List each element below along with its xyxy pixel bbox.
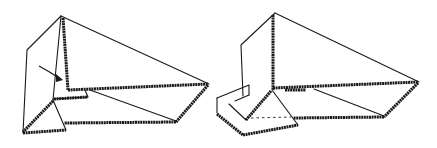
hidden-fold-line bbox=[251, 117, 291, 118]
diagram-svg bbox=[0, 0, 437, 148]
fold-figure-right bbox=[217, 13, 419, 135]
arrow-head-icon bbox=[56, 74, 63, 82]
origami-diagram: Fold inner layer along arrow Result with… bbox=[0, 0, 437, 148]
fold-figure-left bbox=[23, 16, 209, 133]
